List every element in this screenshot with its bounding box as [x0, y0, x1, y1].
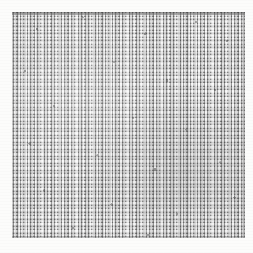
plate-left-seam-band — [12, 12, 14, 238]
scanned-page — [0, 0, 253, 253]
plate-top-seam-band — [12, 12, 245, 15]
tonal-shading-layer — [12, 12, 245, 238]
plate-right-seam-band — [243, 12, 245, 238]
ghost-text-bleedthrough — [58, 0, 248, 9]
texture-plate — [12, 12, 245, 238]
plate-bottom-seam-band — [12, 236, 245, 238]
